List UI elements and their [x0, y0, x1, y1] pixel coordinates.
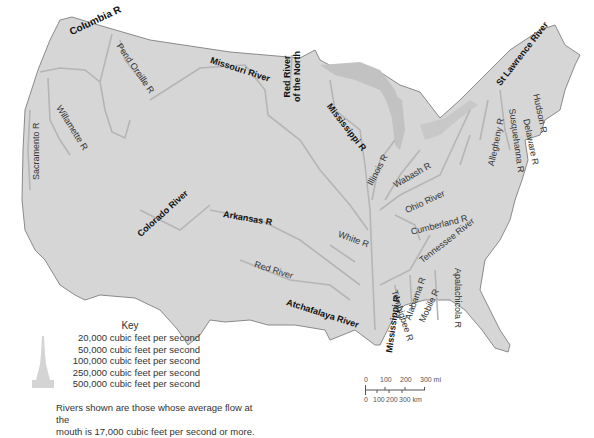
scale-km-100: 100	[373, 396, 385, 403]
label-red-river-north-line1: Red River	[282, 55, 292, 97]
scale-km-0: 0	[364, 396, 368, 403]
label-apalachicola: Apalachicola R	[453, 268, 462, 328]
footnote: Rivers shown are those whose average flo…	[56, 402, 256, 438]
flow-key-graphic	[32, 336, 54, 388]
scale-km-200: 200	[386, 396, 398, 403]
key-row: 100,000 cubic feet per second	[60, 355, 200, 367]
key-row: 50,000 cubic feet per second	[60, 344, 200, 356]
flow-key: Key 20,000 cubic feet per second 50,000 …	[60, 320, 200, 390]
key-title: Key	[60, 320, 200, 331]
key-row: 500,000 cubic feet per second	[60, 378, 200, 390]
key-row: 20,000 cubic feet per second	[60, 332, 200, 344]
scale-ruler	[365, 385, 441, 395]
footnote-line2: mouth is 17,000 cubic feet per second or…	[56, 426, 256, 438]
scale-mi-300: 300 mi	[420, 376, 441, 383]
scale-km-300: 300 km	[399, 396, 422, 403]
scale-mi-0: 0	[364, 376, 368, 383]
key-row: 250,000 cubic feet per second	[60, 367, 200, 379]
scale-mi-200: 200	[400, 376, 412, 383]
scale-mi-100: 100	[380, 376, 392, 383]
label-red-river-north-line2: of the North	[292, 51, 302, 102]
label-red-river-north: Red Riverof the North	[282, 51, 302, 102]
scale-bar: 0 100 200 300 mi 0 100 200 300 km	[364, 376, 474, 416]
label-sacramento: Sacramento R	[32, 122, 41, 180]
footnote-line1: Rivers shown are those whose average flo…	[56, 402, 256, 426]
